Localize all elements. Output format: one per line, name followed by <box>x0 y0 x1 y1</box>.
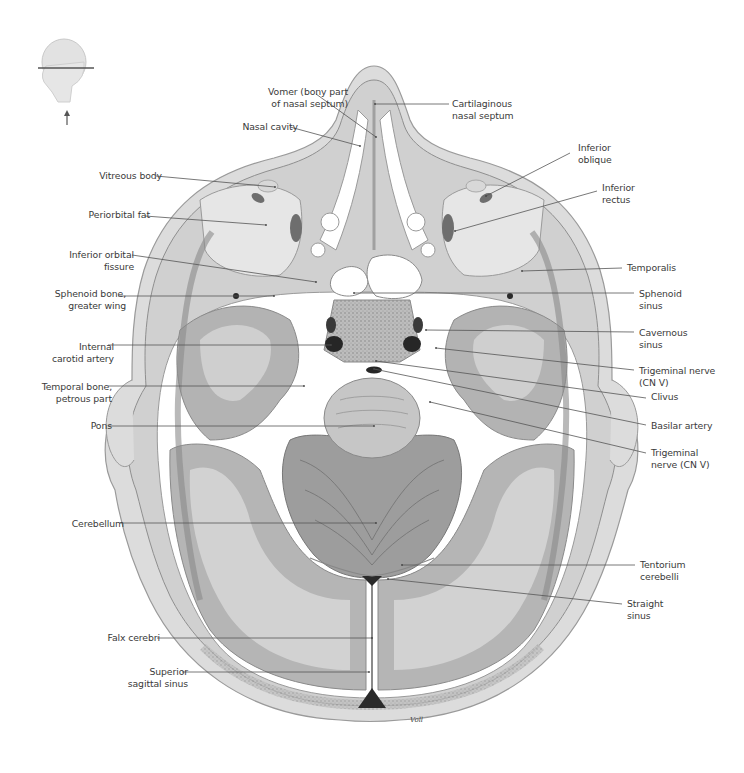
leader-dot-vitreous-body <box>274 186 276 188</box>
leader-dot-basilar-artery <box>373 368 375 370</box>
label-inferior-oblique: Inferior oblique <box>578 142 612 165</box>
label-pons: Pons <box>60 420 112 432</box>
label-periorbital-fat: Periorbital fat <box>80 209 150 221</box>
label-cavernous-sinus: Cavernous sinus <box>639 327 688 350</box>
leader-dot-inferior-oblique <box>485 195 487 197</box>
leader-dot-tentorium-cerebelli <box>401 564 403 566</box>
label-vitreous-body: Vitreous body <box>90 170 162 182</box>
leader-dot-falx-cerebri <box>371 637 373 639</box>
head-section <box>105 66 638 722</box>
label-nasal-cavity: Nasal cavity <box>228 121 298 133</box>
leader-dot-sphenoid-greater-wing <box>273 295 275 297</box>
head-profile-section-plane-icon <box>38 39 94 102</box>
leader-dot-internal-carotid <box>330 344 332 346</box>
label-sphenoid-greater-wing: Sphenoid bone, greater wing <box>40 288 126 311</box>
label-temporalis: Temporalis <box>627 262 676 274</box>
leader-dot-trigeminal-lower <box>429 401 431 403</box>
up-arrow-icon <box>64 110 70 125</box>
artist-signature: Voll <box>410 716 423 724</box>
label-inferior-rectus: Inferior rectus <box>602 182 635 205</box>
leader-dot-straight-sinus <box>387 578 389 580</box>
leader-dot-pons <box>373 425 375 427</box>
leader-dot-trigeminal-upper <box>435 347 437 349</box>
label-straight-sinus: Straight sinus <box>627 598 663 621</box>
label-cartilaginous-septum: Cartilaginous nasal septum <box>452 98 514 121</box>
label-basilar-artery: Basilar artery <box>651 420 712 432</box>
leader-dot-temporalis <box>521 270 523 272</box>
label-internal-carotid: Internal carotid artery <box>40 341 114 364</box>
leader-dot-nasal-cavity <box>359 145 361 147</box>
leader-dot-superior-sagittal-sinus <box>368 671 370 673</box>
leader-dot-clivus <box>375 360 377 362</box>
leader-dot-temporal-petrous <box>303 385 305 387</box>
leader-dot-periorbital-fat <box>265 224 267 226</box>
label-sphenoid-sinus: Sphenoid sinus <box>639 288 682 311</box>
label-falx-cerebri: Falx cerebri <box>90 632 160 644</box>
label-tentorium-cerebelli: Tentorium cerebelli <box>640 559 686 582</box>
label-superior-sagittal-sinus: Superior sagittal sinus <box>110 666 188 689</box>
leader-dot-cerebellum <box>375 522 377 524</box>
label-trigeminal-lower: Trigeminal nerve (CN V) <box>651 447 709 470</box>
anatomy-figure: Voll Vomer (bony part of nasal septum)Na… <box>0 0 744 773</box>
leader-dot-sphenoid-sinus <box>353 292 355 294</box>
label-inferior-orbital-fissure: Inferior orbital fissure <box>44 249 134 272</box>
label-cerebellum: Cerebellum <box>50 518 124 530</box>
label-trigeminal-upper: Trigeminal nerve (CN V) <box>639 365 715 388</box>
leader-dot-inferior-rectus <box>454 230 456 232</box>
leader-dot-inferior-orbital-fissure <box>315 281 317 283</box>
leader-dot-cartilaginous-septum <box>374 103 376 105</box>
leader-dot-vomer <box>375 136 377 138</box>
leader-dot-cavernous-sinus <box>425 329 427 331</box>
label-temporal-petrous: Temporal bone, petrous part <box>36 381 112 404</box>
label-vomer: Vomer (bony part of nasal septum) <box>230 86 348 109</box>
label-clivus: Clivus <box>651 391 678 403</box>
